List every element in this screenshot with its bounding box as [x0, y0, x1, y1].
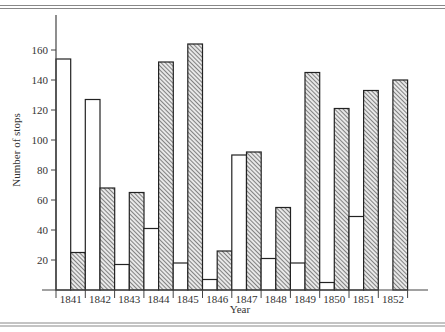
- open-bar-1847: [232, 155, 247, 290]
- x-axis-label: Year: [230, 303, 251, 315]
- y-tick-label: 120: [32, 104, 49, 116]
- hatched-bar-1847: [247, 152, 262, 290]
- hatched-bar-1852: [393, 80, 408, 290]
- x-tick-label-1843: 1843: [118, 293, 141, 305]
- hatched-bar-1845: [188, 44, 203, 290]
- open-bar-1851: [349, 217, 364, 291]
- open-bar-1846: [203, 280, 218, 291]
- hatched-bar-1843: [129, 193, 144, 291]
- y-tick-label: 20: [37, 254, 49, 266]
- y-tick-label: 80: [37, 164, 49, 176]
- open-bar-1843: [115, 265, 130, 291]
- y-tick-label: 160: [32, 44, 49, 56]
- hatched-bar-1841: [71, 253, 86, 291]
- hatched-bar-1844: [159, 62, 174, 290]
- hatched-bar-1846: [217, 251, 232, 290]
- x-tick-label-1844: 1844: [148, 293, 171, 305]
- hatched-bar-1849: [305, 73, 320, 291]
- x-tick-label-1848: 1848: [265, 293, 288, 305]
- x-tick-label-1850: 1850: [323, 293, 346, 305]
- bars-group: [56, 44, 408, 290]
- open-bar-1849: [290, 263, 305, 290]
- y-tick-label: 40: [37, 224, 49, 236]
- y-axis-label: Number of stops: [10, 113, 22, 186]
- hatched-bar-1850: [334, 109, 349, 291]
- x-tick-label-1845: 1845: [177, 293, 200, 305]
- y-tick-label: 100: [32, 134, 49, 146]
- open-bar-1850: [320, 283, 335, 291]
- open-bar-1841: [56, 59, 71, 290]
- x-tick-label-1842: 1842: [89, 293, 111, 305]
- open-bar-1844: [144, 229, 159, 291]
- hatched-bar-1848: [276, 208, 291, 291]
- open-bar-1842: [85, 100, 100, 291]
- y-tick-label: 60: [37, 194, 49, 206]
- bar-chart: 2040608010012014016018411842184318441845…: [0, 0, 445, 332]
- y-tick-label: 140: [32, 74, 49, 86]
- open-bar-1845: [173, 263, 188, 290]
- x-tick-label-1849: 1849: [294, 293, 317, 305]
- x-tick-label-1851: 1851: [353, 293, 375, 305]
- x-tick-label-1841: 1841: [60, 293, 82, 305]
- open-bar-1848: [261, 259, 276, 291]
- hatched-bar-1851: [364, 91, 379, 291]
- x-tick-label-1852: 1852: [382, 293, 404, 305]
- hatched-bar-1842: [100, 188, 115, 290]
- x-tick-label-1846: 1846: [206, 293, 229, 305]
